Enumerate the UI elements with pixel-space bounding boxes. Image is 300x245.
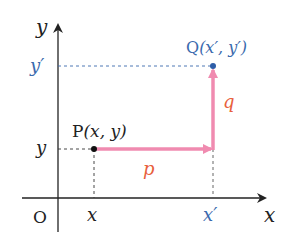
point-q-name: Q <box>186 38 199 57</box>
point-q-label: Q(x′, y′) <box>186 38 247 57</box>
x-axis-label: x <box>264 203 275 227</box>
point-p-coords: (x, y) <box>83 121 126 141</box>
point-q-coords: (x′, y′) <box>199 38 247 57</box>
vector-q-label: q <box>223 91 235 112</box>
point-q-dot <box>210 63 216 69</box>
point-p-label: P(x, y) <box>72 121 127 141</box>
y-prime-tick-label: y′ <box>29 55 44 76</box>
x-prime-tick-label: x′ <box>203 204 217 225</box>
point-p-name: P <box>72 121 83 141</box>
origin-label: O <box>33 207 47 227</box>
y-tick-label: y <box>35 137 47 158</box>
y-axis-label: y <box>35 15 48 39</box>
vector-p-label: p <box>143 158 155 179</box>
point-p-dot <box>91 146 97 152</box>
coordinate-diagram: y x O y′ y x x′ P(x, y) Q(x′, y′) p q <box>0 0 300 245</box>
x-tick-label: x <box>87 204 97 225</box>
